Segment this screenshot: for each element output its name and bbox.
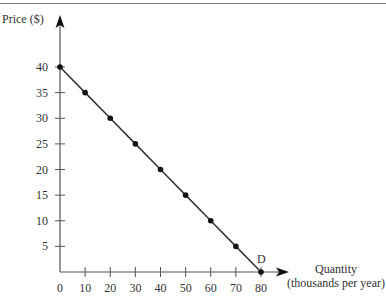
x-tick-label: 10 — [79, 281, 91, 295]
y-tick-label: 10 — [36, 214, 48, 228]
x-tick-label: 70 — [230, 281, 242, 295]
y-ticks: 510152025303540 — [36, 60, 65, 253]
x-tick-label: 40 — [155, 281, 167, 295]
y-tick-label: 5 — [42, 239, 48, 253]
y-tick-label: 40 — [36, 60, 48, 74]
y-tick-label: 15 — [36, 188, 48, 202]
x-tick-label: 0 — [57, 281, 63, 295]
data-point — [258, 269, 264, 275]
data-point — [208, 218, 214, 224]
y-tick-label: 30 — [36, 111, 48, 125]
x-ticks: 01020304050607080 — [57, 267, 267, 295]
x-axis-label-line1: Quantity — [315, 262, 357, 276]
curve-label: D — [257, 252, 266, 266]
y-tick-label: 35 — [36, 86, 48, 100]
data-point — [158, 167, 164, 173]
x-tick-label: 50 — [180, 281, 192, 295]
demand-chart: 510152025303540 01020304050607080 Price … — [0, 0, 386, 304]
data-point — [57, 64, 63, 70]
x-tick-label: 20 — [104, 281, 116, 295]
x-tick-label: 80 — [255, 281, 267, 295]
data-point — [233, 244, 239, 250]
axes — [56, 15, 290, 277]
data-point — [183, 192, 189, 198]
data-point — [107, 115, 113, 121]
data-point — [133, 141, 139, 147]
demand-curve — [57, 64, 264, 275]
x-tick-label: 60 — [205, 281, 217, 295]
x-axis-label-line2: (thousands per year) — [287, 276, 385, 290]
data-point — [82, 90, 88, 96]
x-tick-label: 30 — [129, 281, 141, 295]
y-tick-label: 20 — [36, 163, 48, 177]
y-axis-label: Price ($) — [2, 12, 44, 26]
y-tick-label: 25 — [36, 137, 48, 151]
